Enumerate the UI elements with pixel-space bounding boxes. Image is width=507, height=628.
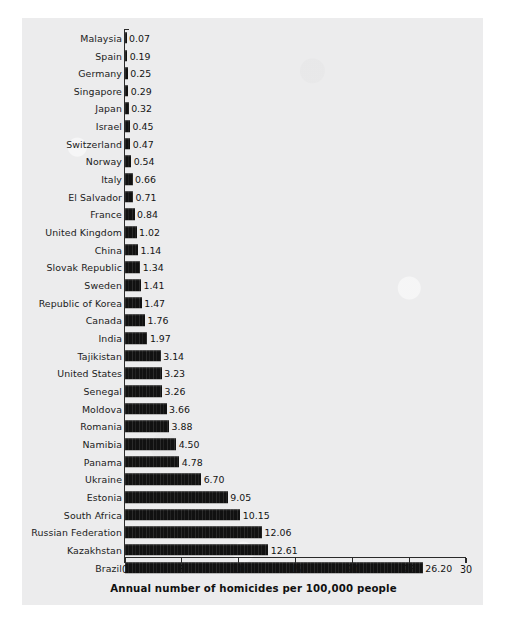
x-tick-mark <box>238 558 239 563</box>
bar-texture <box>125 509 240 521</box>
bar <box>125 332 147 344</box>
bar-row: Germany0.25 <box>0 64 507 82</box>
bar-texture <box>125 85 128 97</box>
bar <box>125 456 179 468</box>
bar <box>125 50 127 62</box>
bar <box>125 226 137 238</box>
category-label: Romania <box>80 421 122 432</box>
bar <box>125 138 130 150</box>
bar-row: Italy0.66 <box>0 170 507 188</box>
bar <box>125 544 268 556</box>
bar-value-label: 1.97 <box>150 333 171 344</box>
category-label: Slovak Republic <box>46 262 122 273</box>
bar-row: Ukraine6.70 <box>0 471 507 489</box>
bar-value-label: 4.50 <box>179 439 200 450</box>
category-label: Israel <box>96 121 122 132</box>
category-label: Japan <box>95 103 122 114</box>
x-tick-mark <box>465 558 466 563</box>
category-label: Norway <box>86 156 122 167</box>
x-tick-mark <box>352 558 353 563</box>
bar <box>125 156 131 168</box>
bar-texture <box>125 385 162 397</box>
bar-texture <box>125 67 128 79</box>
bar <box>125 403 167 415</box>
bar-texture <box>125 244 138 256</box>
bar-row: China1.14 <box>0 241 507 259</box>
x-tick-mark <box>124 558 125 563</box>
bar-texture <box>125 421 169 433</box>
bar-value-label: 3.88 <box>172 421 193 432</box>
category-label: Russian Federation <box>31 527 122 538</box>
bar-value-label: 12.06 <box>265 527 292 538</box>
bar-row: India1.97 <box>0 329 507 347</box>
category-label: Singapore <box>74 85 122 96</box>
bar <box>125 315 145 327</box>
bar-value-label: 0.84 <box>137 209 158 220</box>
y-axis-line <box>124 29 125 558</box>
bar-value-label: 1.02 <box>139 227 160 238</box>
category-label: Germany <box>78 68 122 79</box>
category-label: Estonia <box>87 492 122 503</box>
bar-row: South Africa10.15 <box>0 506 507 524</box>
category-label: South Africa <box>64 509 122 520</box>
bar <box>125 527 262 539</box>
bar-value-label: 1.41 <box>144 280 165 291</box>
bar-value-label: 0.47 <box>133 138 154 149</box>
category-label: El Salvador <box>68 191 122 202</box>
bar-value-label: 9.05 <box>230 492 251 503</box>
bar-texture <box>125 156 131 168</box>
bar-texture <box>125 527 262 539</box>
category-label: Panama <box>84 456 122 467</box>
x-tick-label: 5 <box>179 564 185 575</box>
bar-value-label: 3.26 <box>165 386 186 397</box>
bar-texture <box>125 350 161 362</box>
bar-row: Republic of Korea1.47 <box>0 294 507 312</box>
bar-row: Singapore0.29 <box>0 82 507 100</box>
bar <box>125 421 169 433</box>
bar-value-label: 3.23 <box>164 368 185 379</box>
category-label: Spain <box>95 50 122 61</box>
bar-row: Romania3.88 <box>0 418 507 436</box>
x-tick-label: 25 <box>403 564 415 575</box>
bar-value-label: 4.78 <box>182 456 203 467</box>
bar-row: Estonia9.05 <box>0 488 507 506</box>
bar <box>125 438 176 450</box>
bar-row: Russian Federation12.06 <box>0 523 507 541</box>
bar-value-label: 0.66 <box>135 174 156 185</box>
bar-value-label: 0.32 <box>131 103 152 114</box>
bar-row: Japan0.32 <box>0 100 507 118</box>
category-label: China <box>95 244 122 255</box>
x-tick-label: 30 <box>460 564 472 575</box>
bar <box>125 279 141 291</box>
bar-row: Slovak Republic1.34 <box>0 259 507 277</box>
bar <box>125 262 140 274</box>
x-tick-label: 0 <box>122 564 128 575</box>
bar-texture <box>125 491 228 503</box>
bar-row: Moldova3.66 <box>0 400 507 418</box>
bar-texture <box>125 279 141 291</box>
bar-texture <box>125 562 423 574</box>
bar-value-label: 0.19 <box>130 50 151 61</box>
bar-value-label: 0.71 <box>136 191 157 202</box>
bar-value-label: 1.47 <box>144 297 165 308</box>
bar-texture <box>125 297 142 309</box>
bar-texture <box>125 209 135 221</box>
category-label: Moldova <box>82 403 122 414</box>
bar-value-label: 0.29 <box>131 85 152 96</box>
bar-value-label: 0.25 <box>130 68 151 79</box>
bar-row: Sweden1.41 <box>0 276 507 294</box>
bar-row: United States3.23 <box>0 365 507 383</box>
category-label: Canada <box>86 315 122 326</box>
bar-value-label: 1.14 <box>140 244 161 255</box>
bar-row: Tajikistan3.14 <box>0 347 507 365</box>
x-tick-label: 15 <box>289 564 301 575</box>
bar-row: Namibia4.50 <box>0 435 507 453</box>
bar-texture <box>125 438 176 450</box>
bar-chart-plot: Malaysia0.07Spain0.19Germany0.25Singapor… <box>0 0 507 628</box>
bar-value-label: 6.70 <box>204 474 225 485</box>
category-label: Brazil <box>95 562 122 573</box>
category-label: Sweden <box>84 280 122 291</box>
bar <box>125 244 138 256</box>
bar-row: El Salvador0.71 <box>0 188 507 206</box>
bar-row: Israel0.45 <box>0 117 507 135</box>
